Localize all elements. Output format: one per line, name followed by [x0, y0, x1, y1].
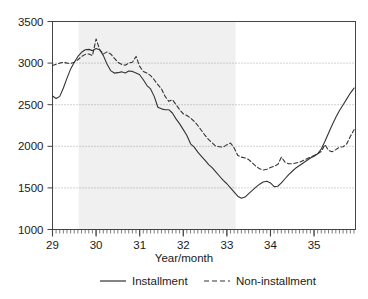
x-axis-labels-group: 29303132333435: [46, 239, 320, 251]
y-axis-labels-group: 100015002000250030003500: [18, 16, 44, 236]
x-axis-title: Year/month: [155, 252, 213, 264]
x-tick-label-35: 35: [308, 239, 321, 251]
x-axis-ticks-group: [53, 230, 315, 237]
y-tick-label-3500: 3500: [18, 16, 44, 28]
y-tick-label-2500: 2500: [18, 99, 44, 111]
y-axis-ticks-group: [48, 22, 53, 230]
x-tick-label-29: 29: [46, 239, 59, 251]
recession-band: [79, 22, 236, 230]
legend-label-installment: Installment: [132, 275, 188, 287]
y-tick-label-3000: 3000: [18, 57, 44, 69]
x-tick-label-33: 33: [220, 239, 233, 251]
x-tick-label-34: 34: [264, 239, 277, 251]
x-axis-minor-ticks-group: [56, 230, 354, 236]
x-tick-label-30: 30: [90, 239, 103, 251]
y-tick-label-1000: 1000: [18, 224, 44, 236]
shaded-region-group: [79, 22, 236, 230]
x-tick-label-31: 31: [133, 239, 146, 251]
y-tick-label-2000: 2000: [18, 140, 44, 152]
legend-label-non-installment: Non-installment: [236, 275, 317, 287]
legend: Installment Non-installment: [100, 275, 317, 287]
x-tick-label-32: 32: [177, 239, 190, 251]
y-tick-label-1500: 1500: [18, 182, 44, 194]
line-chart: 100015002000250030003500 29303132333435 …: [0, 0, 368, 299]
chart-figure: 100015002000250030003500 29303132333435 …: [0, 0, 368, 299]
